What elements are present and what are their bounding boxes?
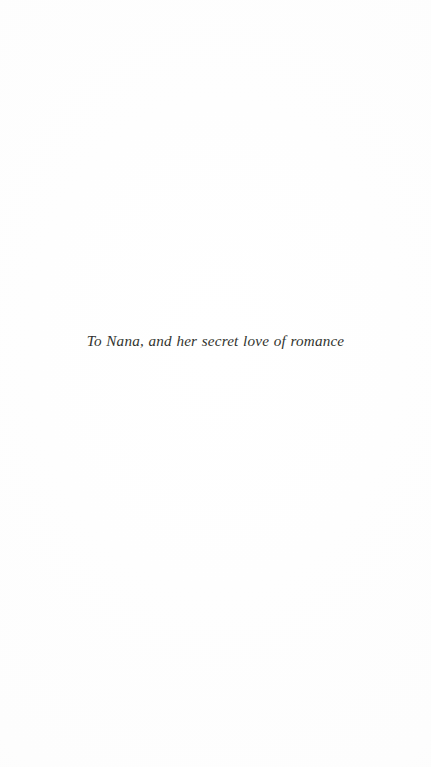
book-page: To Nana, and her secret love of romance <box>0 0 431 767</box>
dedication-block: To Nana, and her secret love of romance <box>0 331 431 351</box>
dedication-text: To Nana, and her secret love of romance <box>87 331 345 351</box>
